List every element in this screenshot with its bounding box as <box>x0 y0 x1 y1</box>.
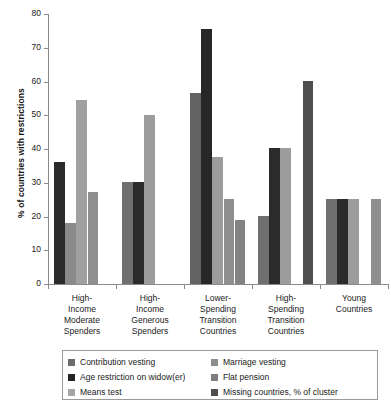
legend-swatch-icon <box>68 359 75 366</box>
category-label-line: Transition <box>184 315 252 326</box>
legend-label: Marriage vesting <box>223 358 286 367</box>
y-axis-tick <box>44 250 48 251</box>
legend-label: Contribution vesting <box>80 358 155 367</box>
y-axis-line <box>48 14 49 285</box>
y-axis-tick <box>44 217 48 218</box>
y-axis-tick-label: 60 <box>19 77 41 86</box>
y-axis-tick-label: 50 <box>19 110 41 119</box>
legend-item[interactable]: Means test <box>68 385 185 399</box>
legend-label: Age restriction on widow(er) <box>80 373 185 382</box>
legend-item[interactable]: Flat pension <box>211 370 338 384</box>
category-label-line: High- <box>252 293 320 304</box>
bar <box>212 157 223 284</box>
bar <box>190 93 201 284</box>
legend-right-column: Marriage vestingFlat pensionMissing coun… <box>211 355 338 400</box>
legend-swatch-icon <box>68 389 75 396</box>
y-axis-tick-label: 30 <box>19 178 41 187</box>
y-axis-tick <box>44 183 48 184</box>
category-label-line: Young <box>320 293 388 304</box>
category-label-line: Spenders <box>48 326 116 337</box>
y-axis-tick <box>44 115 48 116</box>
category-label-line: High- <box>48 293 116 304</box>
bar <box>65 223 76 284</box>
y-axis-tick-label: 40 <box>19 144 41 153</box>
y-axis-tick-label: 20 <box>19 212 41 221</box>
legend-swatch-icon <box>211 374 218 381</box>
legend-label: Flat pension <box>223 373 269 382</box>
bar <box>88 192 99 284</box>
category-label-line: Countries <box>184 326 252 337</box>
y-axis-tick <box>44 82 48 83</box>
bar <box>122 182 133 284</box>
legend-item[interactable]: Missing countries, % of cluster <box>211 385 338 399</box>
bar <box>326 199 337 284</box>
bar <box>280 148 291 284</box>
x-axis-category-label: Lower-SpendingTransitionCountries <box>184 293 252 337</box>
category-label-line: Income <box>48 304 116 315</box>
x-axis-tick <box>388 284 389 289</box>
x-axis-tick <box>48 284 49 289</box>
x-axis-line <box>48 284 388 285</box>
legend-label: Missing countries, % of cluster <box>223 388 338 397</box>
bar <box>348 199 359 284</box>
legend-swatch-icon <box>211 359 218 366</box>
legend-item[interactable]: Age restriction on widow(er) <box>68 370 185 384</box>
category-label-line: Generous <box>116 315 184 326</box>
category-label-line: Spenders <box>116 326 184 337</box>
category-label-line: Lower- <box>184 293 252 304</box>
category-label-line: High- <box>116 293 184 304</box>
bar <box>76 100 87 284</box>
y-axis-tick <box>44 48 48 49</box>
bar <box>303 81 314 285</box>
y-axis-tick-label: 80 <box>19 9 41 18</box>
category-label-line: Spending <box>252 304 320 315</box>
legend-left-column: Contribution vestingAge restriction on w… <box>68 355 185 400</box>
plot-area: 01020304050607080 <box>48 14 388 284</box>
y-axis-tick <box>44 14 48 15</box>
x-axis-tick <box>184 284 185 289</box>
category-label-line: Countries <box>320 304 388 315</box>
chart-legend: Contribution vestingAge restriction on w… <box>62 350 378 400</box>
legend-label: Means test <box>80 388 122 397</box>
bar <box>133 182 144 284</box>
y-axis-tick <box>44 149 48 150</box>
y-axis-tick-label: 0 <box>19 279 41 288</box>
y-axis-tick-label: 10 <box>19 245 41 254</box>
bar <box>235 220 246 284</box>
bar <box>269 148 280 284</box>
category-label-line: Moderate <box>48 315 116 326</box>
x-axis-tick <box>320 284 321 289</box>
x-axis-category-label: High-IncomeGenerousSpenders <box>116 293 184 337</box>
category-label-line: Income <box>116 304 184 315</box>
x-axis-tick <box>252 284 253 289</box>
legend-item[interactable]: Contribution vesting <box>68 355 185 369</box>
bar <box>337 199 348 284</box>
bar <box>258 216 269 284</box>
bar <box>144 115 155 284</box>
x-axis-category-label: High-IncomeModerateSpenders <box>48 293 116 337</box>
legend-swatch-icon <box>68 374 75 381</box>
legend-swatch-icon <box>211 389 218 396</box>
category-label-line: Transition <box>252 315 320 326</box>
x-axis-category-label: YoungCountries <box>320 293 388 315</box>
bar <box>54 162 65 285</box>
bar <box>201 29 212 284</box>
bar-chart: % of countries with restrictions 0102030… <box>0 0 391 410</box>
legend-item[interactable]: Marriage vesting <box>211 355 338 369</box>
y-axis-tick-label: 70 <box>19 43 41 52</box>
category-label-line: Countries <box>252 326 320 337</box>
x-axis-tick <box>116 284 117 289</box>
bar <box>224 199 235 284</box>
bar <box>371 199 382 284</box>
category-label-line: Spending <box>184 304 252 315</box>
x-axis-category-label: High-SpendingTransitionCountries <box>252 293 320 337</box>
